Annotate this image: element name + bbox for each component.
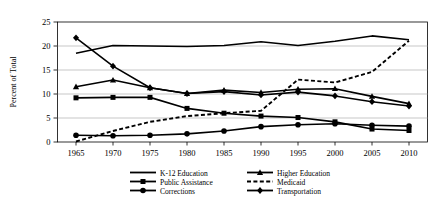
legend-label: Higher Education [277,169,330,178]
legend-item-transportation[interactable]: Transportation [247,187,321,196]
data-marker-square [185,106,190,111]
legend-item-corrections[interactable]: Corrections [130,187,195,196]
x-tick-label: 1980 [179,148,196,158]
legend-label: Medicaid [277,178,306,187]
legend-label: Transportation [277,187,321,196]
chart-figure: 0510152025Percent of Total19651970197519… [0,0,444,204]
y-tick-label: 25 [42,17,51,27]
y-tick-label: 10 [42,89,51,99]
data-marker-circle [73,132,79,138]
data-marker-circle [295,122,301,128]
x-tick-label: 1990 [253,148,270,158]
legend-label: K-12 Education [160,169,208,178]
data-marker-square [111,95,116,100]
y-tick-label: 15 [42,65,51,75]
data-marker-circle [369,122,375,128]
line-chart: 0510152025Percent of Total19651970197519… [0,0,444,204]
data-marker-circle [221,128,227,134]
data-marker-square [74,95,79,100]
data-marker-circle [332,121,338,127]
data-marker-circle [140,188,146,194]
y-tick-label: 5 [46,113,50,123]
data-marker-diamond [257,187,263,194]
data-marker-circle [406,123,412,129]
data-marker-square [141,179,146,184]
y-tick-label: 0 [46,137,50,147]
data-marker-circle [110,133,116,139]
data-marker-circle [258,124,264,130]
data-marker-circle [184,131,190,137]
data-marker-square [296,115,301,120]
legend-item-higher-education[interactable]: Higher Education [247,169,330,178]
x-tick-label: 1985 [216,148,233,158]
x-tick-label: 1965 [68,148,85,158]
data-marker-square [259,114,264,119]
legend-label: Public Assistance [160,178,213,187]
legend-item-medicaid[interactable]: Medicaid [247,178,306,187]
legend-item-k-12-education[interactable]: K-12 Education [130,169,208,178]
x-tick-label: 2005 [364,148,381,158]
y-axis-label: Percent of Total [9,56,18,108]
data-marker-square [148,95,153,100]
data-marker-circle [147,132,153,138]
x-tick-label: 2000 [327,148,344,158]
legend-label: Corrections [160,187,195,196]
x-tick-label: 1970 [105,148,122,158]
x-tick-label: 1975 [142,148,159,158]
x-tick-label: 1995 [290,148,307,158]
y-tick-label: 20 [42,41,51,51]
legend-item-public-assistance[interactable]: Public Assistance [130,178,213,187]
x-tick-label: 2010 [401,148,418,158]
